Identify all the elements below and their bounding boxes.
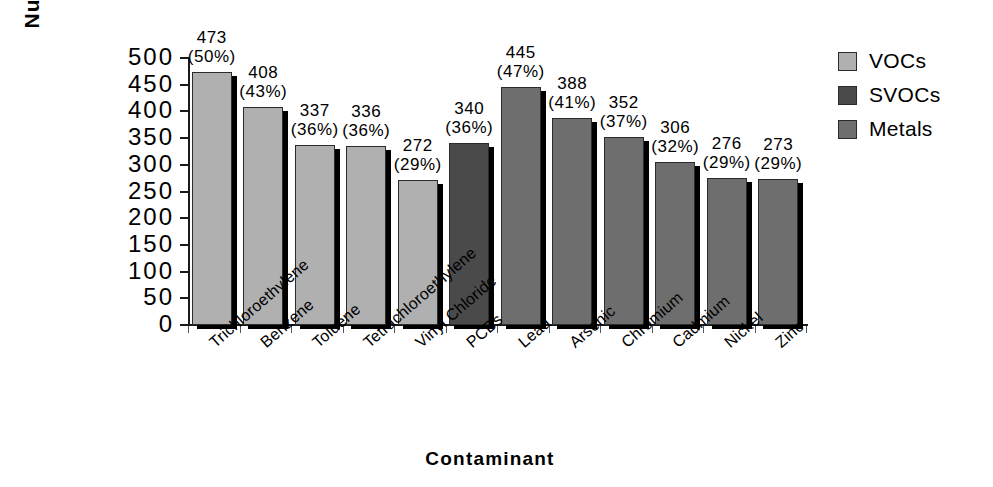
bar-value-label: 473(50%) (188, 28, 236, 66)
bar-body (501, 87, 541, 325)
bar[interactable]: 445(47%) (501, 87, 541, 325)
y-tick-label: 50 (60, 283, 174, 311)
y-tick-label: 450 (60, 70, 174, 98)
y-tick-label: 300 (60, 150, 174, 178)
bar-body (346, 146, 386, 325)
legend-swatch-icon (838, 52, 857, 71)
y-tick-label: 500 (60, 43, 174, 71)
y-tick-label: 250 (60, 177, 174, 205)
bar-value-label: 445(47%) (497, 43, 545, 81)
bar-value: 352 (600, 93, 648, 112)
bar-value: 337 (291, 101, 339, 120)
bar-value: 340 (445, 99, 493, 118)
bar-percent: (36%) (445, 118, 493, 137)
bar-value: 273 (754, 135, 802, 154)
bar-value: 388 (548, 74, 596, 93)
bar-body (604, 137, 644, 325)
legend: VOCsSVOCsMetals (838, 44, 941, 146)
bar-value: 445 (497, 43, 545, 62)
y-tick-label: 0 (60, 310, 174, 338)
bar-percent: (43%) (239, 82, 287, 101)
bar-percent: (41%) (548, 93, 596, 112)
bar[interactable]: 273(29%) (758, 179, 798, 325)
bar-value-label: 352(37%) (600, 93, 648, 131)
bar-value-label: 337(36%) (291, 101, 339, 139)
bar-value: 473 (188, 28, 236, 47)
bar-body (295, 145, 335, 325)
bar[interactable]: 473(50%) (192, 72, 232, 325)
bar-value: 306 (651, 118, 699, 137)
bar-percent: (29%) (754, 154, 802, 173)
bar-value: 336 (342, 102, 390, 121)
legend-label: Metals (869, 117, 933, 141)
bar-percent: (36%) (291, 120, 339, 139)
y-tick-label: 400 (60, 96, 174, 124)
bar[interactable]: 388(41%) (552, 118, 592, 325)
legend-item-metals[interactable]: Metals (838, 112, 941, 146)
bar-percent: (29%) (394, 155, 442, 174)
legend-item-vocs[interactable]: VOCs (838, 44, 941, 78)
bar-body (552, 118, 592, 325)
bar-body (758, 179, 798, 325)
y-axis-title: Number of Sites (10, 0, 54, 84)
bar[interactable]: 336(36%) (346, 146, 386, 325)
y-tick-label: 350 (60, 123, 174, 151)
bar-value-label: 273(29%) (754, 135, 802, 173)
bar-body (192, 72, 232, 325)
legend-item-svocs[interactable]: SVOCs (838, 78, 941, 112)
bar-percent: (47%) (497, 62, 545, 81)
bar-value: 276 (703, 134, 751, 153)
bar-value: 272 (394, 136, 442, 155)
legend-label: SVOCs (869, 83, 941, 107)
bar-value-label: 388(41%) (548, 74, 596, 112)
x-tick-mark (188, 326, 189, 333)
y-tick-label: 150 (60, 230, 174, 258)
x-axis-title: Contaminant (190, 448, 790, 470)
bar-value-label: 336(36%) (342, 102, 390, 140)
bar-value-label: 272(29%) (394, 136, 442, 174)
legend-swatch-icon (838, 86, 857, 105)
bar-percent: (36%) (342, 121, 390, 140)
bar-percent: (29%) (703, 153, 751, 172)
bar-value-label: 276(29%) (703, 134, 751, 172)
bar-chart: Number of Sites Contaminant 500450400350… (0, 0, 993, 487)
y-tick-label: 200 (60, 203, 174, 231)
bar-percent: (37%) (600, 112, 648, 131)
bar-percent: (50%) (188, 47, 236, 66)
bar-value-label: 306(32%) (651, 118, 699, 156)
bar-value: 408 (239, 63, 287, 82)
bar-percent: (32%) (651, 137, 699, 156)
legend-label: VOCs (869, 49, 926, 73)
bar[interactable]: 337(36%) (295, 145, 335, 325)
y-tick-label: 100 (60, 257, 174, 285)
bar-value-label: 408(43%) (239, 63, 287, 101)
legend-swatch-icon (838, 120, 857, 139)
bar-value-label: 340(36%) (445, 99, 493, 137)
bar[interactable]: 352(37%) (604, 137, 644, 325)
